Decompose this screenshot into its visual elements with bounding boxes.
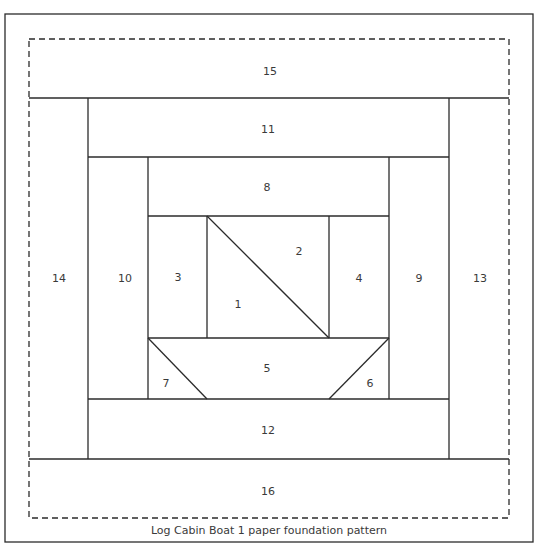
piece-label-14: 14	[52, 272, 66, 285]
piece-label-12: 12	[261, 424, 275, 437]
piece-label-8: 8	[264, 181, 271, 194]
pattern-caption: Log Cabin Boat 1 paper foundation patter…	[151, 524, 387, 537]
diagonal-5-6	[329, 338, 389, 399]
piece-label-11: 11	[261, 123, 275, 136]
piece-label-1: 1	[235, 298, 242, 311]
piece-label-3: 3	[175, 271, 182, 284]
piece-label-6: 6	[367, 377, 374, 390]
piece-label-5: 5	[264, 362, 271, 375]
diagonal-5-7	[148, 338, 207, 399]
piece-label-13: 13	[473, 272, 487, 285]
piece-label-4: 4	[356, 272, 363, 285]
piece-label-10: 10	[118, 272, 132, 285]
log-cabin-boat-pattern: 1 2 3 4 5 6 7 8 9 10 11 12 13 14 15 16 L…	[0, 0, 538, 558]
piece-label-2: 2	[296, 245, 303, 258]
piece-label-16: 16	[261, 485, 275, 498]
piece-label-7: 7	[163, 377, 170, 390]
piece-label-15: 15	[263, 65, 277, 78]
diagonal-1-2	[207, 216, 329, 338]
piece-label-9: 9	[416, 272, 423, 285]
